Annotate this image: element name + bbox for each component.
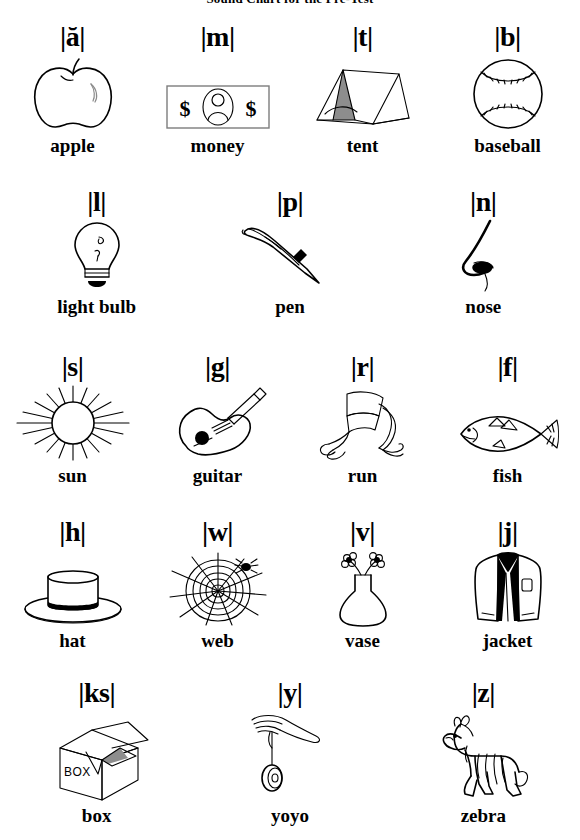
- sound-card-money: |m| $ $ money: [149, 22, 287, 157]
- word-label: sun: [58, 465, 87, 487]
- word-label: light bulb: [57, 296, 136, 318]
- phoneme-symbol: |v|: [350, 517, 375, 547]
- dollar-sign-left: $: [179, 96, 190, 121]
- apple-icon: [25, 54, 121, 132]
- sound-card-box: |ks| BOX box: [9, 678, 185, 827]
- word-label: box: [82, 805, 112, 827]
- baseball-icon: [469, 54, 547, 132]
- sound-card-baseball: |b| baseball: [439, 22, 577, 157]
- phoneme-symbol: |r|: [351, 352, 374, 382]
- phoneme-symbol: |l|: [87, 187, 106, 217]
- sound-card-nose: |n| nose: [395, 187, 571, 318]
- phoneme-symbol: |z|: [472, 678, 495, 708]
- phoneme-symbol: |y|: [278, 678, 303, 708]
- hat-icon: [18, 549, 128, 627]
- word-label: web: [201, 630, 234, 652]
- word-label: money: [191, 135, 245, 157]
- sound-chart-sheet: Sound Chart for the Pre-Test |ă| apple |…: [0, 0, 580, 840]
- word-label: apple: [50, 135, 94, 157]
- sound-card-light-bulb: |l| light bulb: [9, 187, 185, 318]
- box-face-text: BOX: [64, 765, 91, 779]
- phoneme-symbol: |ă|: [60, 22, 85, 52]
- web-icon: [166, 549, 270, 627]
- word-label: zebra: [461, 805, 506, 827]
- money-icon: $ $: [163, 54, 273, 132]
- word-label: pen: [275, 296, 305, 318]
- word-label: jacket: [483, 630, 533, 652]
- chart-row: |ă| apple |m| $: [0, 22, 580, 164]
- word-label: hat: [59, 630, 85, 652]
- sound-card-jacket: |j| jacket: [439, 517, 577, 652]
- phoneme-symbol: |w|: [202, 517, 233, 547]
- word-label: yoyo: [271, 805, 309, 827]
- light-bulb-icon: [69, 219, 125, 293]
- phoneme-symbol: |f|: [497, 352, 517, 382]
- jacket-icon: [468, 549, 548, 627]
- word-label: guitar: [193, 465, 243, 487]
- sound-card-guitar: |g| guitar: [149, 352, 287, 487]
- sound-card-sun: |s| sun: [4, 352, 142, 487]
- sun-icon: [15, 384, 131, 462]
- dollar-sign-right: $: [245, 96, 256, 121]
- phoneme-symbol: |ks|: [78, 678, 115, 708]
- tent-icon: [311, 54, 415, 132]
- sound-card-yoyo: |y| yoyo: [202, 678, 378, 827]
- word-label: baseball: [474, 135, 541, 157]
- fish-icon: [453, 384, 563, 462]
- pen-icon: [235, 219, 345, 293]
- yoyo-icon: [242, 710, 338, 802]
- chart-row: |s| sun |g|: [0, 352, 580, 494]
- sound-card-vase: |v|: [294, 517, 432, 652]
- word-label: vase: [345, 630, 380, 652]
- guitar-icon: [168, 384, 268, 462]
- sound-card-hat: |h| hat: [4, 517, 142, 652]
- phoneme-symbol: |g|: [205, 352, 230, 382]
- phoneme-symbol: |b|: [494, 22, 520, 52]
- sound-card-apple: |ă| apple: [4, 22, 142, 157]
- sound-card-run: |r| run: [294, 352, 432, 487]
- sound-card-web: |w|: [149, 517, 287, 652]
- zebra-icon: [431, 710, 535, 802]
- word-label: nose: [465, 296, 501, 318]
- chart-row: |ks| BOX box |y|: [0, 678, 580, 838]
- sound-card-tent: |t| tent: [294, 22, 432, 157]
- phoneme-symbol: |h|: [59, 517, 85, 547]
- word-label: fish: [493, 465, 523, 487]
- phoneme-symbol: |n|: [470, 187, 496, 217]
- chart-row: |l| light bulb |p|: [0, 187, 580, 327]
- nose-icon: [452, 219, 514, 293]
- phoneme-symbol: |t|: [352, 22, 372, 52]
- phoneme-symbol: |s|: [62, 352, 84, 382]
- phoneme-symbol: |m|: [200, 22, 234, 52]
- phoneme-symbol: |j|: [497, 517, 517, 547]
- vase-icon: [328, 549, 398, 627]
- sound-card-fish: |f| fish: [439, 352, 577, 487]
- box-icon: BOX: [46, 710, 148, 802]
- word-label: run: [348, 465, 378, 487]
- sound-card-pen: |p| pen: [202, 187, 378, 318]
- chart-row: |h| hat |w|: [0, 517, 580, 659]
- page-title: Sound Chart for the Pre-Test: [0, 0, 580, 3]
- word-label: tent: [347, 135, 379, 157]
- sound-card-zebra: |z|: [395, 678, 571, 827]
- run-icon: [313, 384, 413, 462]
- phoneme-symbol: |p|: [277, 187, 303, 217]
